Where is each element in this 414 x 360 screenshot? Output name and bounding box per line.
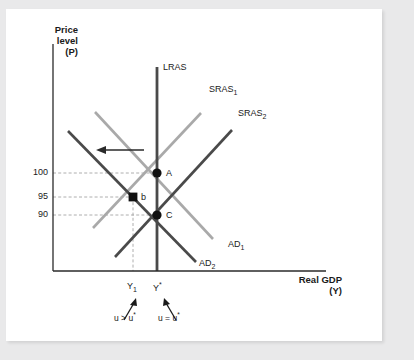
curve-label-sras1-sub: 1 <box>234 89 238 96</box>
point-label-c: C <box>166 210 173 220</box>
curve-label-lras-text: LRAS <box>163 62 187 72</box>
note-unemployment-above-text: u > u <box>114 313 133 323</box>
point-c-marker <box>152 210 161 219</box>
y-axis-title: Price level (P) <box>20 25 78 58</box>
note-unemployment-above-star: * <box>133 311 136 318</box>
point-label-b: b <box>141 192 146 202</box>
note-unemployment-equal-text: u = u <box>158 313 177 323</box>
x-marker-y1: Y1 <box>127 281 137 294</box>
curve-label-ad1-sub: 1 <box>241 244 245 251</box>
curve-label-sras2-sub: 2 <box>263 113 267 120</box>
curve-label-lras: LRAS <box>163 62 187 72</box>
y-axis-title-line3: (P) <box>20 47 78 58</box>
note-unemployment-equal-star: * <box>177 311 180 318</box>
point-b-marker <box>129 193 138 202</box>
figure-root: Price level (P) Real GDP (Y) 100 95 90 L… <box>0 0 414 360</box>
curve-label-sras1-text: SRAS <box>209 84 234 94</box>
point-label-a: A <box>166 168 172 178</box>
y-tick-label-90: 90 <box>22 209 48 219</box>
curve-label-ad2-text: AD <box>199 258 212 268</box>
y-tick-label-95: 95 <box>22 191 48 201</box>
y-tick-label-100: 100 <box>22 167 48 177</box>
curve-label-sras2-text: SRAS <box>238 108 263 118</box>
curve-label-ad1: AD1 <box>228 239 244 252</box>
curve-label-ad2: AD2 <box>199 258 215 271</box>
curve-label-ad1-text: AD <box>228 239 241 249</box>
x-axis-title-line2: (Y) <box>270 286 342 297</box>
curve-label-sras2: SRAS2 <box>238 108 266 121</box>
guide-lines <box>53 173 157 271</box>
x-marker-ystar-sup: * <box>159 281 162 288</box>
curve-label-ad2-sub: 2 <box>212 263 216 270</box>
x-marker-ystar: Y* <box>153 281 162 293</box>
x-marker-y1-sub: 1 <box>133 286 137 293</box>
point-a-marker <box>152 168 161 177</box>
curve-label-sras1: SRAS1 <box>209 84 237 97</box>
ad-shift-arrow-icon <box>96 146 144 154</box>
x-axis-title: Real GDP (Y) <box>270 275 342 297</box>
note-unemployment-above: u > u* <box>114 311 136 324</box>
note-unemployment-equal: u = u* <box>158 311 180 324</box>
